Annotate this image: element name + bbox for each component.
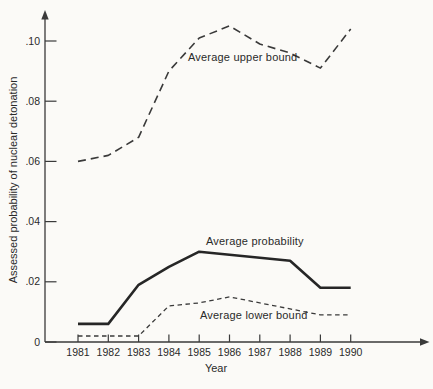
y-tick-label: .06 <box>25 155 40 167</box>
y-tick-label: .04 <box>25 215 40 227</box>
y-axis-arrow-icon <box>41 10 48 20</box>
x-axis-arrow-icon <box>420 338 430 345</box>
y-axis-title: Assessed probability of nuclear detonati… <box>7 50 19 310</box>
x-tick-label: 1988 <box>278 346 302 358</box>
x-tick-label: 1981 <box>66 346 90 358</box>
x-tick-label: 1983 <box>127 346 151 358</box>
x-axis-title: Year <box>194 362 238 374</box>
chart-figure: 0.02.04.06.08.10198119821983198419851986… <box>0 0 433 389</box>
y-tick-label: .08 <box>25 95 40 107</box>
x-tick-label: 1985 <box>188 346 212 358</box>
x-tick-label: 1987 <box>248 346 272 358</box>
y-tick-label: .02 <box>25 275 40 287</box>
x-tick-label: 1989 <box>309 346 333 358</box>
x-tick-label: 1990 <box>339 346 363 358</box>
series-label-lower-bound: Average lower bound <box>200 309 308 321</box>
series-label-average-probability: Average probability <box>206 235 304 247</box>
series-upper-bound-line <box>78 26 351 162</box>
series-label-upper-bound: Average upper bound <box>188 51 297 63</box>
y-tick-label: .10 <box>25 35 40 47</box>
x-tick-label: 1986 <box>218 346 242 358</box>
x-tick-label: 1982 <box>97 346 121 358</box>
x-tick-label: 1984 <box>157 346 181 358</box>
y-tick-label: 0 <box>34 336 40 348</box>
